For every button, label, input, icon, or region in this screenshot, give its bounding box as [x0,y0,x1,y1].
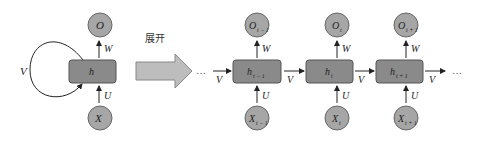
hidden-label: h [247,66,252,77]
hidden-label: h [390,66,395,77]
w-label: W [262,43,272,54]
hidden-node [376,60,423,83]
step-t-minus-1: V O t − 1 W h t − 1 U X t − 1 [213,13,281,130]
u-label: U [262,90,270,101]
v-label: V [20,65,28,77]
v-label: V [358,74,366,85]
rnn-unroll-diagram: V O W h U X 展开 … V O t − 1 W h [0,0,479,143]
output-label: O [398,20,405,31]
w-label: W [411,43,421,54]
ellipsis-left: … [196,65,206,76]
ellipsis-right: … [452,65,462,76]
input-label: X [397,113,405,124]
hidden-label: h [325,66,330,77]
unfold-arrow-icon [136,54,192,88]
input-subscript: t − 1 [256,120,268,126]
output-label: O [96,19,104,31]
folded-rnn: V O W h U X [20,13,116,130]
output-subscript: t − 1 [257,27,269,33]
v-label: V [287,74,295,85]
hidden-node [233,60,281,83]
u-label: U [411,90,419,101]
input-label: X [94,112,103,124]
output-label: O [332,20,339,31]
output-subscript: t + 1 [406,27,418,33]
output-label: O [249,20,256,31]
v-label-out: V [429,74,437,85]
unrolled-rnn: … V O t − 1 W h t − 1 U X t − 1 V O t [196,13,462,130]
hidden-label: h [89,66,94,77]
v-label: V [216,74,224,85]
u-label: U [342,90,350,101]
input-label: X [331,113,339,124]
hidden-subscript: t + 1 [396,73,408,79]
u-label: U [104,90,112,101]
step-t: V O t W h t U X t [284,13,353,130]
w-label: W [342,43,352,54]
unfold-label: 展开 [145,33,165,44]
w-label: W [104,43,114,54]
input-subscript: t + 1 [405,120,417,126]
step-t-plus-1: V O t + 1 W h t + 1 U X t + 1 [355,13,423,130]
hidden-subscript: t − 1 [253,73,265,79]
input-label: X [248,113,256,124]
